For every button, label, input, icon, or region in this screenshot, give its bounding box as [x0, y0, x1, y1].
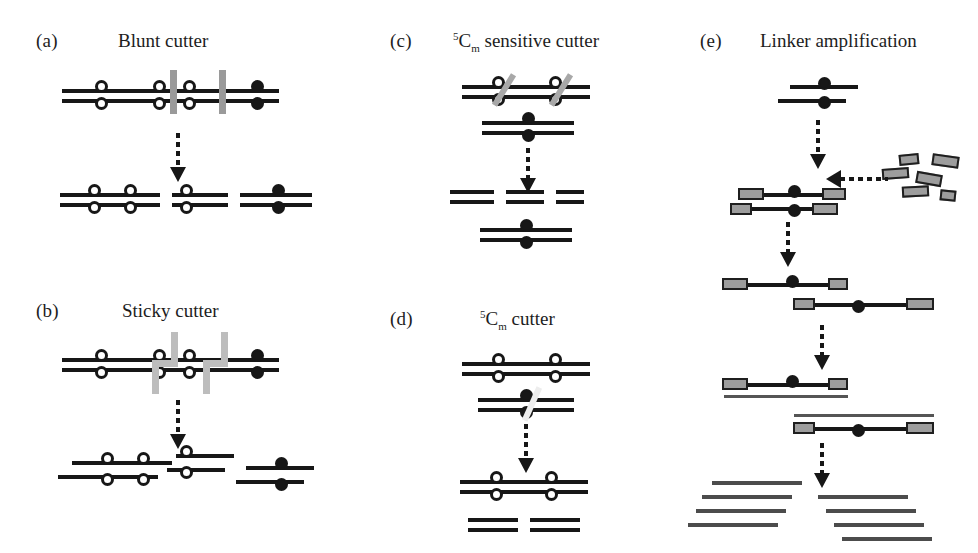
- cpg-site-methylated: [788, 185, 801, 198]
- panel-a-title: Blunt cutter: [118, 30, 208, 52]
- dna-bottom-strand: [167, 468, 225, 472]
- cpg-site-methylated: [786, 375, 799, 388]
- linker-box: [898, 153, 919, 166]
- cpg-site-methylated: [520, 219, 533, 232]
- panel-a: (a) Blunt cutter: [0, 0, 340, 270]
- cpg-site-methylated: [272, 184, 285, 197]
- cpg-site-open: [180, 466, 193, 479]
- cpg-site-open: [101, 473, 114, 486]
- panel-c-title: 5Cm sensitive cutter: [453, 30, 599, 52]
- cpg-site-open: [88, 201, 101, 214]
- linker-box: [906, 298, 934, 310]
- cpg-site-open: [549, 353, 562, 366]
- subscript-m: m: [471, 42, 480, 54]
- cpg-site-methylated: [251, 366, 264, 379]
- cpg-site-open: [95, 366, 108, 379]
- cpg-site-methylated: [852, 300, 865, 313]
- linker-box: [738, 188, 764, 200]
- title-rest: sensitive cutter: [480, 30, 599, 51]
- panel-d-tag: (d): [390, 308, 413, 330]
- cpg-site-methylated: [522, 112, 535, 125]
- cpg-site-methylated: [272, 201, 285, 214]
- amplified-strand: [702, 495, 792, 499]
- panel-b-title: Sticky cutter: [122, 300, 219, 322]
- cpg-site-open: [492, 353, 505, 366]
- cut-site-staggered: [203, 360, 210, 394]
- panel-b: (b) Sticky cutter: [0, 280, 340, 553]
- reaction-arrow: [812, 325, 832, 373]
- dna-bottom-strand: [60, 203, 160, 207]
- reaction-arrow: [808, 120, 828, 172]
- dna-fragment-top: [468, 518, 518, 522]
- dna-fragment-top: [556, 190, 584, 194]
- cut-site-blunt: [170, 70, 177, 114]
- cpg-site-open: [124, 184, 137, 197]
- new-synthesised-strand: [724, 395, 848, 398]
- dna-bottom-strand: [462, 95, 590, 99]
- cpg-site-open: [153, 80, 166, 93]
- linker-box: [730, 203, 752, 215]
- linker-box: [828, 278, 848, 290]
- subscript-m: m: [498, 320, 507, 332]
- amplified-strand: [826, 509, 916, 513]
- cut-site-staggered: [152, 360, 159, 394]
- linker-box: [915, 171, 943, 187]
- dna-fragment-top: [530, 518, 580, 522]
- cpg-site-open: [490, 488, 503, 501]
- cpg-site-open: [101, 452, 114, 465]
- dna-fragment-bottom: [450, 200, 494, 204]
- cpg-site-open: [180, 201, 193, 214]
- dna-top-strand: [72, 461, 172, 465]
- cpg-site-open: [490, 471, 503, 484]
- cpg-site-methylated: [522, 129, 535, 142]
- figure-canvas: (a) Blunt cutter: [0, 0, 978, 553]
- reaction-arrow: [168, 133, 188, 185]
- linker-box: [939, 189, 956, 202]
- reaction-arrow: [812, 443, 832, 491]
- cpg-site-methylated: [852, 424, 865, 437]
- dna-bottom-strand: [236, 480, 304, 484]
- cpg-site-methylated: [818, 96, 831, 109]
- title-rest: cutter: [507, 308, 555, 329]
- cpg-site-open: [95, 80, 108, 93]
- cpg-site-methylated: [786, 275, 799, 288]
- cpg-site-open: [545, 488, 558, 501]
- cpg-site-open: [153, 97, 166, 110]
- amplified-strand: [712, 481, 802, 485]
- linker-addition-arrow: [826, 170, 888, 188]
- cpg-site-open: [124, 201, 137, 214]
- dna-fragment-top: [450, 190, 494, 194]
- cpg-site-open: [180, 445, 193, 458]
- cpg-site-open: [137, 473, 150, 486]
- linker-box: [828, 378, 848, 390]
- amplified-strand: [834, 523, 924, 527]
- cpg-site-open: [183, 80, 196, 93]
- dna-fragment-bottom: [506, 200, 544, 204]
- panel-a-tag: (a): [36, 30, 58, 52]
- base-letter-c: C: [459, 30, 472, 51]
- cpg-site-open: [183, 97, 196, 110]
- dna-bottom-strand: [460, 490, 588, 494]
- dna-top-strand: [462, 85, 590, 89]
- amplified-strand: [842, 537, 932, 541]
- linker-box: [822, 188, 846, 200]
- cpg-site-open: [549, 370, 562, 383]
- new-synthesised-strand: [794, 414, 934, 417]
- cpg-site-methylated: [275, 478, 288, 491]
- cpg-site-open: [137, 452, 150, 465]
- panel-e-tag: (e): [700, 30, 722, 52]
- base-letter-c: C: [486, 308, 499, 329]
- panel-e-title: Linker amplification: [760, 30, 917, 52]
- cpg-site-methylated: [251, 80, 264, 93]
- cpg-site-open: [88, 184, 101, 197]
- amplified-strand: [818, 495, 908, 499]
- cpg-site-methylated: [818, 77, 831, 90]
- dna-fragment-top: [506, 190, 544, 194]
- cpg-site-open: [183, 366, 196, 379]
- reaction-arrow: [778, 222, 798, 270]
- dna-fragment-bottom: [530, 528, 580, 532]
- cpg-site-open: [180, 184, 193, 197]
- cpg-site-open: [95, 349, 108, 362]
- cpg-site-open: [183, 349, 196, 362]
- cpg-site-methylated: [520, 236, 533, 249]
